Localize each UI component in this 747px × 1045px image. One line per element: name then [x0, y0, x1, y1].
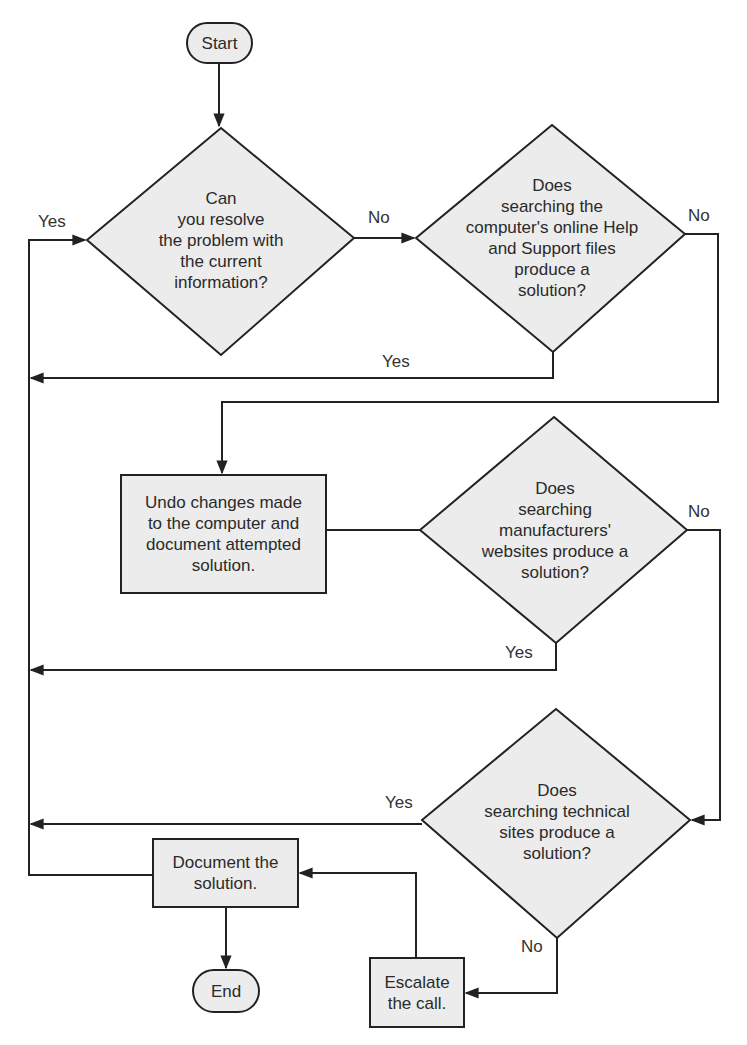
- edge-label-q2-no: No: [688, 206, 710, 226]
- start-label: Start: [187, 23, 252, 63]
- decision-q4-text: Does searching technical sites produce a…: [432, 722, 682, 922]
- edge-label-q3-no: No: [688, 502, 710, 522]
- decision-q3-text: Does searching manufacturers' websites p…: [430, 430, 680, 630]
- undo-process-text: Undo changes made to the computer and do…: [121, 475, 326, 593]
- edge-label-q1-yes: Yes: [38, 212, 66, 232]
- edge-label-q3-yes: Yes: [505, 643, 533, 663]
- edge-label-q4-no: No: [521, 937, 543, 957]
- edge-label-q2-yes: Yes: [382, 352, 410, 372]
- document-process-text: Document the solution.: [153, 839, 298, 907]
- edge-q3-yes: [31, 643, 556, 670]
- decision-q1-text: Can you resolve the problem with the cur…: [120, 140, 322, 340]
- edge-q2-yes: [31, 352, 553, 378]
- edge-label-q1-no: No: [368, 208, 390, 228]
- decision-q2-text: Does searching the computer's online Hel…: [430, 138, 674, 338]
- edge-q4-no: [466, 938, 557, 993]
- end-label: End: [193, 970, 259, 1012]
- escalate-process-text: Escalate the call.: [370, 958, 464, 1027]
- edge-q3-no: [687, 530, 720, 820]
- edge-label-q4-yes: Yes: [385, 793, 413, 813]
- edge-escalate-document: [300, 873, 416, 958]
